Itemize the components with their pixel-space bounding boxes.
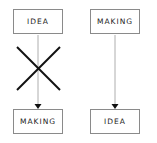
right-bottom-box: IDEA [90,109,140,134]
left-bottom-label: MAKING [20,117,56,126]
cross-icon [17,47,60,90]
left-top-box: IDEA [13,9,63,34]
left-bottom-box: MAKING [13,109,63,134]
right-top-box: MAKING [90,9,140,34]
left-top-label: IDEA [27,17,49,26]
right-top-label: MAKING [97,17,133,26]
right-bottom-label: IDEA [104,117,126,126]
